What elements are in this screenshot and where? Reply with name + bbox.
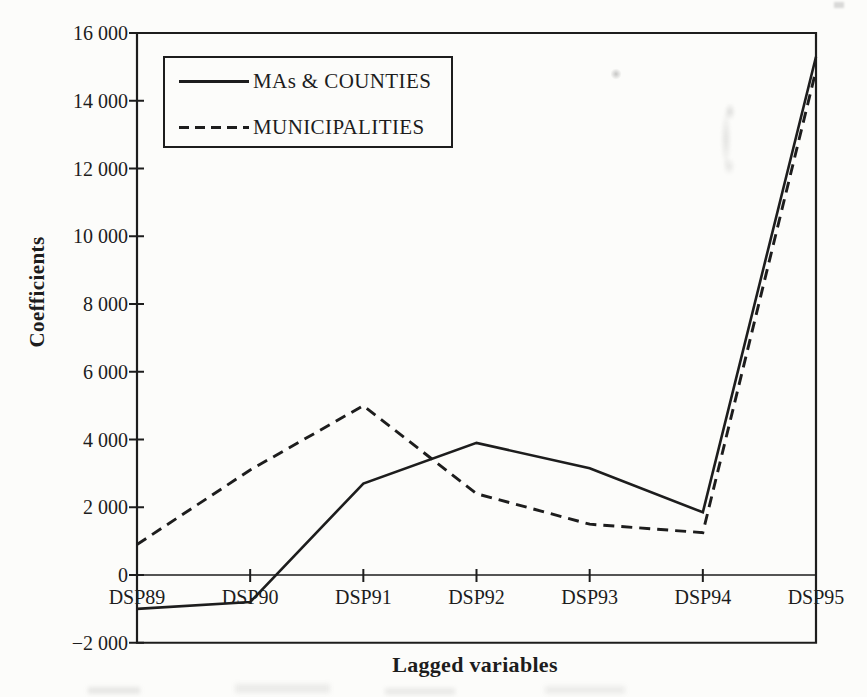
y-tick-label: −2 000 [72,632,128,654]
legend-label: MAs & COUNTIES [253,69,431,94]
y-tick-label: 2 000 [83,496,128,518]
x-tick-label: DSP90 [222,586,279,608]
y-tick-label: 14 000 [73,90,128,112]
y-tick-label: 0 [118,564,128,586]
y-tick-label: 6 000 [83,361,128,383]
x-axis-title: Lagged variables [137,652,813,678]
legend-item: MUNICIPALITIES [179,114,445,140]
x-tick-label: DSP94 [674,586,731,608]
x-tick-label: DSP93 [561,586,618,608]
dashed-line-sample [179,126,249,129]
solid-line-sample [179,80,249,83]
legend-label: MUNICIPALITIES [253,115,425,140]
y-tick-label: 8 000 [83,293,128,315]
y-tick-label: 4 000 [83,429,128,451]
y-tick-label: 12 000 [73,158,128,180]
y-tick-label: 10 000 [73,225,128,247]
x-tick-label: DSP95 [788,586,845,608]
y-tick-label: 16 000 [73,22,128,44]
y-axis-title: Coefficients [25,237,50,348]
legend-item: MAs & COUNTIES [179,68,445,94]
x-tick-label: DSP91 [335,586,392,608]
chart-legend: MAs & COUNTIES MUNICIPALITIES [163,56,453,148]
figure-page: 16 00014 00012 00010 0008 0006 0004 0002… [0,0,867,697]
x-tick-label: DSP92 [448,586,505,608]
x-tick-label: DSP89 [109,586,166,608]
